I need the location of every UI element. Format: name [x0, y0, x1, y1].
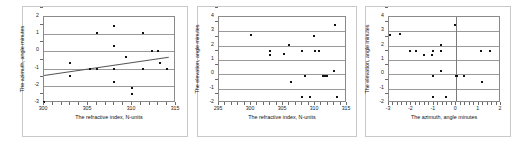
y-tick-1 — [215, 50, 218, 51]
x-tick-minor — [333, 102, 334, 105]
x-tick-minor — [442, 102, 443, 105]
x-tick-minor — [308, 102, 309, 105]
x-tick-minor — [166, 102, 167, 105]
y-tick-label--1: -1 — [198, 85, 214, 90]
x-tick-minor — [487, 102, 488, 105]
x-tick-minor — [96, 102, 97, 105]
data-point — [333, 70, 335, 72]
data-point — [309, 96, 311, 98]
x-tick-minor — [105, 102, 106, 105]
data-point — [125, 56, 127, 58]
gridline-y-2 — [389, 46, 499, 47]
data-point — [131, 93, 133, 95]
x-tick-label-300: 300 — [33, 106, 53, 111]
gridline-y--1 — [44, 69, 174, 70]
x-tick-minor — [491, 102, 492, 105]
data-point — [326, 75, 328, 77]
x-tick-minor — [340, 102, 341, 105]
data-point — [409, 50, 411, 52]
data-point — [318, 50, 320, 52]
chart-panel-1: The refractive index, N-unitsThe azimuth… — [22, 6, 188, 137]
x-tick-minor — [482, 102, 483, 105]
x-tick-minor — [469, 102, 470, 105]
x-tick-minor — [301, 102, 302, 105]
x-axis-title: The azimuth, angle minutes — [388, 114, 500, 120]
x-tick-minor — [263, 102, 264, 105]
data-point — [301, 50, 303, 52]
y-tick-label-2: 2 — [368, 42, 384, 47]
trend-line — [44, 57, 169, 76]
x-tick-minor — [392, 102, 393, 105]
data-point — [313, 35, 315, 37]
data-point — [336, 96, 338, 98]
data-point — [432, 75, 434, 77]
x-tick-minor — [464, 102, 465, 105]
data-point — [113, 25, 115, 27]
data-point — [440, 44, 442, 46]
data-point — [69, 62, 71, 64]
data-point — [334, 24, 336, 26]
x-tick-minor — [288, 102, 289, 105]
y-tick-3 — [385, 21, 388, 22]
y-tick--1 — [215, 79, 218, 80]
x-tick-minor — [437, 102, 438, 105]
gridline-y-1 — [389, 60, 499, 61]
x-tick-minor — [122, 102, 123, 105]
data-point — [431, 54, 433, 56]
x-tick-label-1: 1 — [468, 106, 488, 111]
x-tick-label--1: -1 — [423, 106, 443, 111]
x-tick-minor — [320, 102, 321, 105]
y-tick-label--3: -3 — [23, 99, 39, 104]
data-point — [69, 75, 71, 77]
x-tick-minor — [224, 102, 225, 105]
x-tick-minor — [397, 102, 398, 105]
data-point — [142, 68, 144, 70]
x-tick-minor — [231, 102, 232, 105]
x-tick-minor — [244, 102, 245, 105]
data-point — [432, 50, 434, 52]
y-tick-label-2: 2 — [198, 42, 214, 47]
y-tick-0 — [215, 64, 218, 65]
y-tick-label--2: -2 — [368, 99, 384, 104]
x-tick-minor — [419, 102, 420, 105]
y-tick-label-3: 3 — [368, 27, 384, 32]
y-tick-label-0: 0 — [368, 70, 384, 75]
data-point — [288, 44, 290, 46]
x-tick-minor — [52, 102, 53, 105]
data-point — [314, 50, 316, 52]
gridline-y-2 — [219, 46, 345, 47]
x-tick-minor — [69, 102, 70, 105]
y-tick-label--1: -1 — [368, 85, 384, 90]
y-tick-label-1: 1 — [368, 56, 384, 61]
x-tick-minor — [446, 102, 447, 105]
y-tick-4 — [215, 7, 218, 8]
data-point — [113, 81, 115, 83]
data-point — [250, 34, 252, 36]
gridline-y-0 — [389, 74, 499, 75]
x-tick-minor — [401, 102, 402, 105]
x-tick-minor — [256, 102, 257, 105]
y-tick-0 — [385, 64, 388, 65]
data-point — [463, 75, 465, 77]
y-tick-label-2: 2 — [23, 13, 39, 18]
y-tick-label-0: 0 — [198, 70, 214, 75]
data-point — [481, 81, 483, 83]
y-tick-label--2: -2 — [198, 99, 214, 104]
data-point — [399, 33, 401, 35]
y-tick--1 — [385, 79, 388, 80]
data-point — [142, 32, 144, 34]
y-tick-label--1: -1 — [23, 65, 39, 70]
y-tick-label--2: -2 — [23, 82, 39, 87]
x-tick-label-315: 315 — [165, 106, 185, 111]
data-point — [151, 50, 153, 52]
x-tick-label--2: -2 — [400, 106, 420, 111]
data-point — [489, 50, 491, 52]
data-point — [415, 50, 417, 52]
chart-panel-2: The refractive index, N-unitsThe elevati… — [197, 6, 357, 137]
data-point — [456, 75, 458, 77]
x-tick-minor — [61, 102, 62, 105]
data-point — [290, 81, 292, 83]
x-tick-minor — [460, 102, 461, 105]
data-point — [166, 68, 168, 70]
x-tick-label-300: 300 — [240, 106, 260, 111]
